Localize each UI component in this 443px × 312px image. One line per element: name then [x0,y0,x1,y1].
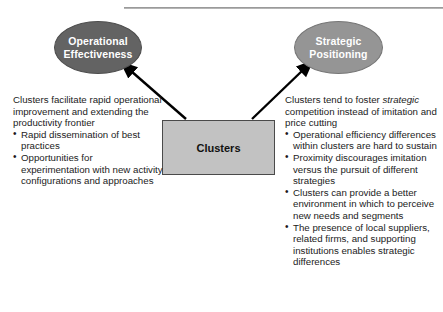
node-strategic-positioning: Strategic Positioning [294,21,383,74]
list-item: Operational efficiency differences withi… [285,129,441,152]
list-item: Clusters can provide a better environmen… [285,187,441,222]
operational-effectiveness-label-line1: Operational [68,35,127,47]
operational-effectiveness-label-line2: Effectiveness [63,48,132,60]
strategic-positioning-label: Strategic Positioning [303,35,373,60]
node-operational-effectiveness: Operational Effectiveness [54,21,142,74]
strategic-positioning-label-line1: Strategic [316,35,362,47]
list-item: The presence of local suppliers, related… [285,222,441,268]
list-item: Rapid dissemination of best practices [13,129,163,152]
right-intro-part2: competition instead of imitation and pri… [285,106,437,129]
list-item: Opportunities for experimentation with n… [13,152,163,187]
left-intro-paragraph: Clusters facilitate rapid operational im… [13,94,163,129]
left-text-column: Clusters facilitate rapid operational im… [13,94,163,187]
list-item: Proximity discourages imitation versus t… [285,152,441,187]
operational-effectiveness-label: Operational Effectiveness [57,35,138,60]
diagram-canvas: Operational Effectiveness Strategic Posi… [0,0,443,312]
clusters-label: Clusters [196,142,240,154]
strategic-positioning-label-line2: Positioning [309,48,367,60]
right-text-column: Clusters tend to foster strategic compet… [285,94,441,268]
right-intro-part1: Clusters tend to foster [285,94,382,105]
right-bullet-list: Operational efficiency differences withi… [285,129,441,268]
node-clusters: Clusters [162,120,275,175]
right-intro-paragraph: Clusters tend to foster strategic compet… [285,94,441,129]
top-divider-rule [124,7,443,9]
right-intro-emphasis: strategic [382,94,419,105]
left-bullet-list: Rapid dissemination of best practices Op… [13,129,163,187]
